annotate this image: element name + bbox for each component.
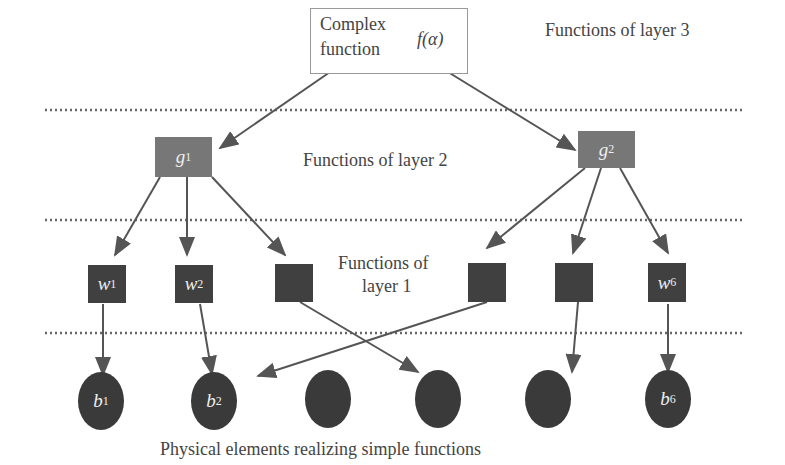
complex-label-line1: Complex [320,14,386,35]
complex-function-symbol: f(α) [417,29,443,50]
node-b6: b6 [645,370,691,428]
node-label: w [185,273,198,295]
node-subscript: 1 [185,150,191,165]
node-subscript: 1 [103,394,109,409]
node-b4 [415,370,461,428]
layer3-label: Functions of layer 3 [545,20,689,41]
node-w5 [555,263,593,302]
node-w3 [275,264,313,302]
node-subscript: 2 [197,277,203,292]
node-b1: b1 [78,372,124,430]
node-w6: w6 [648,263,686,302]
node-w4 [468,263,506,302]
layer1-label-line1: Functions of [338,253,429,274]
node-w2: w2 [175,265,213,303]
node-subscript: 6 [670,392,676,407]
node-label: b [93,390,103,412]
caption: Physical elements realizing simple funct… [160,439,481,460]
node-b5 [525,370,571,428]
node-subscript: 2 [608,142,614,157]
node-label: b [660,388,670,410]
complex-function-box: Complex function f(α) [310,8,468,74]
node-subscript: 6 [670,275,676,290]
node-label: b [206,390,216,412]
layer2-label: Functions of layer 2 [303,150,447,171]
layer-dividers [45,110,745,333]
arrows [103,72,668,376]
node-b2: b2 [191,372,237,430]
node-label: w [658,272,671,294]
node-subscript: 2 [216,394,222,409]
node-g2: g2 [578,131,635,168]
complex-label-line2: function [320,39,380,60]
node-label: g [176,146,186,168]
node-w1: w1 [88,265,126,303]
node-subscript: 1 [110,277,116,292]
node-label: w [98,273,111,295]
node-label: g [599,139,609,161]
layer1-label-line2: layer 1 [362,276,411,297]
node-b3 [305,370,351,428]
node-g1: g1 [155,137,212,177]
